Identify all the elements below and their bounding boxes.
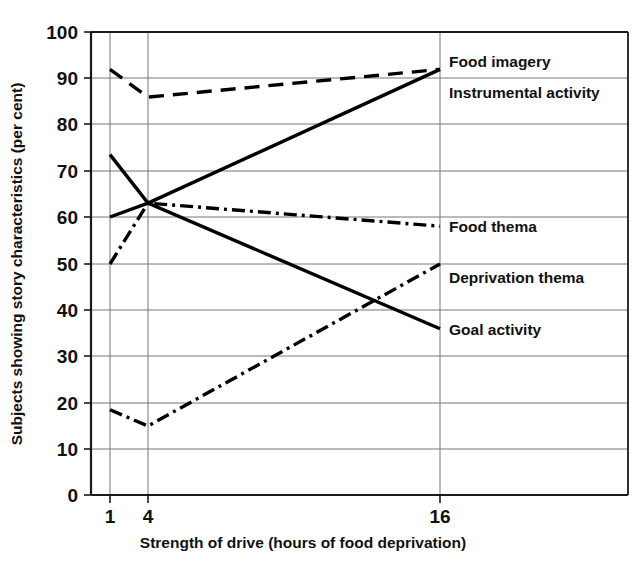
y-tick-label: 80 bbox=[57, 114, 78, 135]
x-axis-title: Strength of drive (hours of food depriva… bbox=[140, 534, 466, 551]
y-tick-label: 70 bbox=[57, 161, 78, 182]
y-tick-label: 50 bbox=[57, 254, 78, 275]
y-tick-label: 100 bbox=[46, 22, 78, 43]
line-chart: 100 90 80 70 60 50 40 30 20 10 0 1 4 16 … bbox=[0, 0, 638, 563]
x-tick-label: 4 bbox=[143, 506, 154, 527]
y-tick-label: 90 bbox=[57, 68, 78, 89]
series-label-food-imagery: Food imagery bbox=[449, 53, 551, 70]
y-tick-label: 0 bbox=[67, 485, 78, 506]
series-label-food-thema: Food thema bbox=[449, 218, 537, 235]
chart-figure: 100 90 80 70 60 50 40 30 20 10 0 1 4 16 … bbox=[0, 0, 638, 563]
y-tick-label: 40 bbox=[57, 300, 78, 321]
x-tick-label: 16 bbox=[429, 506, 450, 527]
x-tick-label: 1 bbox=[105, 506, 116, 527]
y-tick-label: 30 bbox=[57, 346, 78, 367]
y-tick-label: 20 bbox=[57, 393, 78, 414]
y-axis-title: Subjects showing story characteristics (… bbox=[8, 83, 25, 446]
series-label-instrumental-activity: Instrumental activity bbox=[449, 84, 600, 101]
series-label-goal-activity: Goal activity bbox=[449, 321, 542, 338]
series-label-deprivation-thema: Deprivation thema bbox=[449, 269, 585, 286]
y-tick-label: 10 bbox=[57, 439, 78, 460]
y-tick-label: 60 bbox=[57, 207, 78, 228]
